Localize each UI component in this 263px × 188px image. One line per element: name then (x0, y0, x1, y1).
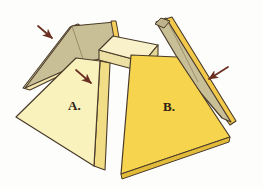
front-right-face (121, 55, 230, 179)
face-label-a: A. (68, 98, 81, 114)
arrow-3 (209, 67, 228, 79)
illustration-canvas: A. B. (0, 0, 263, 188)
front-left-face (16, 58, 110, 170)
pyramid-faces-diagram (0, 0, 263, 188)
arrow-1 (38, 26, 52, 38)
face-label-b: B. (163, 99, 175, 115)
